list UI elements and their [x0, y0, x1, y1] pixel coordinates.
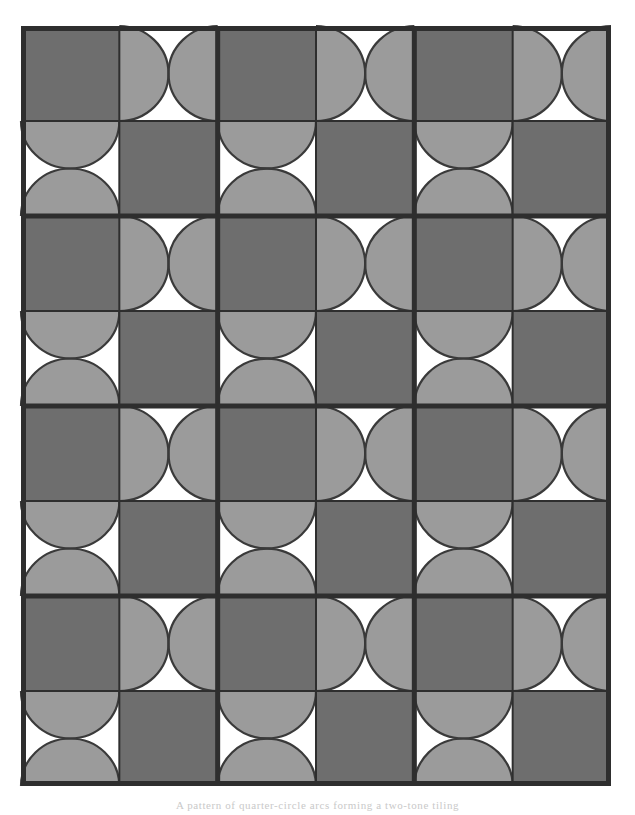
- pattern-cell: [414, 26, 512, 121]
- pattern-cell: [414, 311, 512, 406]
- solid-dark-square: [414, 596, 512, 691]
- pattern-canvas: [0, 0, 635, 792]
- solid-dark-square: [414, 216, 512, 311]
- solid-dark-square: [119, 501, 217, 596]
- pattern-cell: [414, 121, 512, 216]
- pattern-cell: [513, 121, 611, 216]
- pattern-cell: [21, 26, 119, 121]
- solid-dark-square: [21, 216, 119, 311]
- pattern-cell: [21, 691, 119, 786]
- pattern-cell: [21, 501, 119, 596]
- pattern-cell: [218, 216, 316, 311]
- solid-dark-square: [21, 596, 119, 691]
- pattern-cell: [119, 406, 217, 501]
- pattern-cell: [414, 216, 512, 311]
- pattern-cell: [119, 501, 217, 596]
- pattern-cell: [513, 406, 611, 501]
- pattern-cell: [414, 596, 512, 691]
- pattern-cell: [414, 501, 512, 596]
- pattern-cell: [513, 26, 611, 121]
- pattern-cell: [513, 691, 611, 786]
- solid-dark-square: [218, 216, 316, 311]
- solid-dark-square: [316, 311, 414, 406]
- pattern-cell: [414, 406, 512, 501]
- pattern-cell: [414, 691, 512, 786]
- solid-dark-square: [21, 406, 119, 501]
- solid-dark-square: [119, 311, 217, 406]
- page-root: A pattern of quarter-circle arcs forming…: [0, 0, 635, 815]
- pattern-cell: [218, 691, 316, 786]
- pattern-cell: [316, 311, 414, 406]
- pattern-cell: [218, 596, 316, 691]
- pattern-cell: [316, 216, 414, 311]
- pattern-cell: [218, 26, 316, 121]
- pattern-cell: [21, 406, 119, 501]
- pattern-cell: [119, 596, 217, 691]
- pattern-cell: [513, 596, 611, 691]
- pattern-cell: [513, 311, 611, 406]
- solid-dark-square: [218, 26, 316, 121]
- pattern-cell: [21, 121, 119, 216]
- pattern-cell: [218, 501, 316, 596]
- pattern-cell: [316, 596, 414, 691]
- pattern-cell: [316, 501, 414, 596]
- pattern-cell: [218, 121, 316, 216]
- pattern-cell: [218, 406, 316, 501]
- figure-caption: A pattern of quarter-circle arcs forming…: [0, 792, 635, 815]
- pattern-cell: [21, 311, 119, 406]
- solid-dark-square: [21, 26, 119, 121]
- pattern-cell: [119, 216, 217, 311]
- pattern-cell: [119, 121, 217, 216]
- solid-dark-square: [513, 501, 611, 596]
- solid-dark-square: [414, 26, 512, 121]
- solid-dark-square: [513, 121, 611, 216]
- pattern-cell: [316, 26, 414, 121]
- solid-dark-square: [218, 596, 316, 691]
- pattern-cell: [21, 596, 119, 691]
- pattern-cell: [21, 216, 119, 311]
- solid-dark-square: [316, 121, 414, 216]
- solid-dark-square: [218, 406, 316, 501]
- solid-dark-square: [316, 501, 414, 596]
- pattern-cell: [119, 311, 217, 406]
- pattern-cell: [316, 691, 414, 786]
- caption-label: A pattern of quarter-circle arcs forming…: [176, 798, 459, 812]
- solid-dark-square: [513, 311, 611, 406]
- pattern-figure: [0, 0, 635, 792]
- pattern-cell: [316, 406, 414, 501]
- pattern-cell: [513, 216, 611, 311]
- pattern-cell: [119, 691, 217, 786]
- pattern-cell: [119, 26, 217, 121]
- pattern-cell: [513, 501, 611, 596]
- pattern-cell: [218, 311, 316, 406]
- pattern-cell: [316, 121, 414, 216]
- solid-dark-square: [513, 691, 611, 786]
- solid-dark-square: [414, 406, 512, 501]
- solid-dark-square: [119, 121, 217, 216]
- solid-dark-square: [119, 691, 217, 786]
- solid-dark-square: [316, 691, 414, 786]
